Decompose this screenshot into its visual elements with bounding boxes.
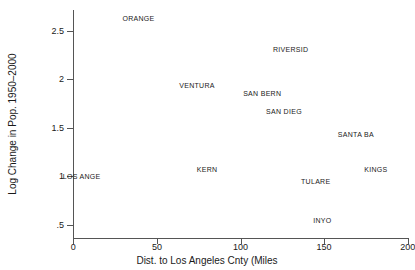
x-tick-label: 100 <box>233 243 248 252</box>
data-point-label: SAN BERN <box>243 89 281 96</box>
data-point-label: SAN DIEG <box>266 108 302 115</box>
data-point-label: TULARE <box>301 178 330 185</box>
x-tick-label: 50 <box>152 243 162 252</box>
data-point-label: INYO <box>313 217 331 224</box>
y-tick-label: 1 <box>38 172 64 181</box>
data-point-label: KERN <box>197 165 218 172</box>
data-point-label: SANTA BA <box>338 130 374 137</box>
x-tick-label: 200 <box>400 243 415 252</box>
x-tick-label: 150 <box>317 243 332 252</box>
x-axis-title: Dist. to Los Angeles Cnty (Miles <box>136 255 277 266</box>
data-point-label: RIVERSID <box>273 46 308 53</box>
data-point-label: VENTURA <box>179 82 215 89</box>
y-tick-label: 2 <box>38 75 64 84</box>
y-tick-mark <box>67 31 73 32</box>
data-point-label: KINGS <box>364 165 387 172</box>
y-tick-label: 1.5 <box>38 123 64 132</box>
y-axis-title: Log Change in Pop. 1950–2000 <box>7 53 18 194</box>
y-tick-mark <box>67 79 73 80</box>
y-tick-label: 2.5 <box>38 26 64 35</box>
y-tick-label: .5 <box>38 221 64 230</box>
x-tick-label: 0 <box>71 243 76 252</box>
y-axis-line <box>73 10 74 239</box>
y-tick-mark <box>67 225 73 226</box>
data-point-label: ORANGE <box>122 14 154 21</box>
data-point-label: LOS ANGE <box>63 173 101 180</box>
y-tick-mark <box>67 128 73 129</box>
